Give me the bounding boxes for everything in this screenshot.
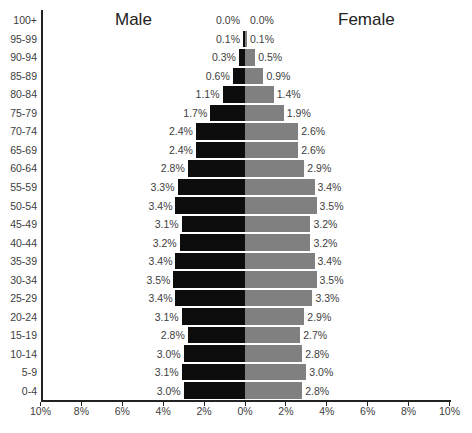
male-value-label: 3.0% (157, 348, 181, 360)
y-tick-label: 65-69 (0, 144, 37, 156)
female-bar (245, 160, 304, 177)
y-tick-label: 95-99 (0, 33, 37, 45)
y-tick-label: 80-84 (0, 88, 37, 100)
male-bar (184, 382, 245, 399)
x-axis-line (41, 400, 451, 402)
female-value-label: 3.2% (313, 237, 337, 249)
female-bar (245, 31, 247, 48)
male-value-label: 1.7% (183, 107, 207, 119)
female-value-label: 3.5% (320, 200, 344, 212)
female-bar (245, 179, 315, 196)
male-bar (233, 68, 245, 85)
y-tick-label: 0-4 (0, 385, 37, 397)
female-bar (245, 123, 298, 140)
male-value-label: 0.1% (216, 33, 240, 45)
male-bar (175, 197, 245, 214)
y-tick-label: 10-14 (0, 348, 37, 360)
y-tick-label: 55-59 (0, 181, 37, 193)
population-pyramid-chart: Male Female 0-43.0%2.8%5-93.1%3.0%10-143… (0, 0, 472, 433)
x-tick-label: 6% (107, 405, 137, 417)
female-bar (245, 382, 302, 399)
female-bar (245, 142, 298, 159)
female-value-label: 0.5% (258, 51, 282, 63)
female-value-label: 0.9% (266, 70, 290, 82)
y-tick-label: 15-19 (0, 329, 37, 341)
female-value-label: 3.4% (318, 255, 342, 267)
female-value-label: 2.7% (303, 329, 327, 341)
female-bar (245, 271, 317, 288)
female-bar (245, 253, 315, 270)
y-tick-label: 85-89 (0, 70, 37, 82)
male-value-label: 0.0% (216, 14, 240, 26)
male-value-label: 3.3% (151, 181, 175, 193)
female-value-label: 2.8% (305, 385, 329, 397)
female-value-label: 3.0% (309, 366, 333, 378)
female-bar (245, 327, 300, 344)
male-bar (182, 364, 245, 381)
male-bar (182, 216, 245, 233)
male-value-label: 3.5% (147, 274, 171, 286)
x-tick-label: 4% (312, 405, 342, 417)
female-bar (245, 290, 312, 307)
y-tick-label: 35-39 (0, 255, 37, 267)
female-bar (245, 234, 310, 251)
x-tick-label: 2% (271, 405, 301, 417)
female-value-label: 3.5% (320, 274, 344, 286)
female-value-label: 2.9% (307, 311, 331, 323)
male-bar (223, 86, 245, 103)
male-value-label: 2.4% (169, 144, 193, 156)
male-value-label: 3.1% (155, 366, 179, 378)
y-tick-label: 25-29 (0, 292, 37, 304)
female-bar (245, 345, 302, 362)
female-bar (245, 364, 306, 381)
female-value-label: 1.4% (277, 88, 301, 100)
y-tick-label: 70-74 (0, 125, 37, 137)
male-bar (173, 271, 245, 288)
female-value-label: 3.2% (313, 218, 337, 230)
female-value-label: 3.4% (318, 181, 342, 193)
male-bar (188, 327, 245, 344)
x-tick-label: 8% (394, 405, 424, 417)
x-tick-label: 8% (66, 405, 96, 417)
y-tick-label: 5-9 (0, 366, 37, 378)
male-bar (175, 253, 245, 270)
male-value-label: 3.4% (149, 255, 173, 267)
y-tick-label: 100+ (0, 14, 37, 26)
male-title: Male (115, 10, 152, 30)
male-bar (180, 234, 245, 251)
female-value-label: 2.9% (307, 162, 331, 174)
male-value-label: 3.1% (155, 218, 179, 230)
male-bar (210, 105, 245, 122)
x-tick-label: 6% (353, 405, 383, 417)
female-bar (245, 105, 284, 122)
x-tick-label: 0% (230, 405, 260, 417)
x-tick-label: 2% (189, 405, 219, 417)
x-tick-label: 10% (435, 405, 465, 417)
y-axis-line (41, 10, 43, 402)
female-value-label: 2.6% (301, 144, 325, 156)
female-bar (245, 197, 317, 214)
x-tick-label: 10% (26, 405, 56, 417)
x-tick-label: 4% (148, 405, 178, 417)
male-value-label: 0.6% (206, 70, 230, 82)
female-value-label: 0.0% (250, 14, 274, 26)
y-tick-label: 20-24 (0, 311, 37, 323)
female-value-label: 3.3% (315, 292, 339, 304)
male-bar (196, 142, 245, 159)
male-value-label: 3.4% (149, 200, 173, 212)
y-tick-label: 45-49 (0, 218, 37, 230)
female-bar (245, 68, 263, 85)
y-tick-label: 75-79 (0, 107, 37, 119)
female-title: Female (338, 10, 395, 30)
female-bar (245, 216, 310, 233)
male-value-label: 2.8% (161, 329, 185, 341)
male-value-label: 3.0% (157, 385, 181, 397)
y-tick-label: 50-54 (0, 200, 37, 212)
male-value-label: 3.4% (149, 292, 173, 304)
male-bar (184, 345, 245, 362)
y-tick-label: 60-64 (0, 162, 37, 174)
female-value-label: 2.6% (301, 125, 325, 137)
male-bar (175, 290, 245, 307)
male-bar (196, 123, 245, 140)
male-value-label: 3.2% (153, 237, 177, 249)
